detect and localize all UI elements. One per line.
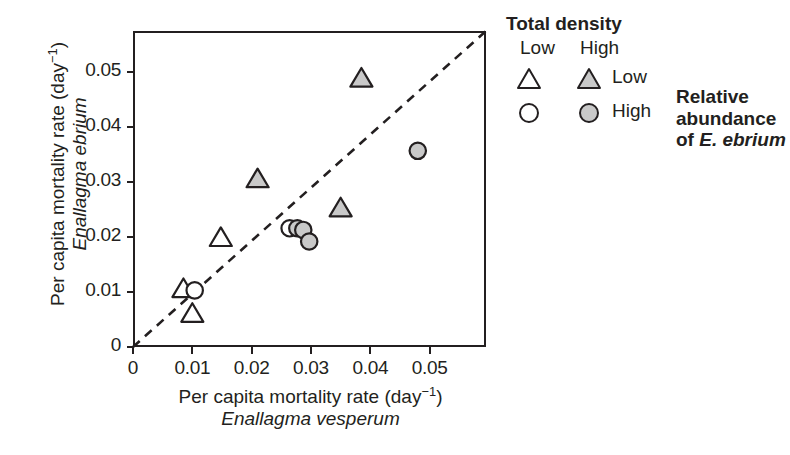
y-axis-tick (127, 181, 134, 183)
x-axis-title-exponent: −1 (421, 384, 436, 399)
data-point-circle-filled (301, 233, 317, 249)
x-axis-title-prefix: Per capita mortality rate (day (179, 386, 422, 407)
legend-side-note-line3: of E. ebrium (676, 129, 790, 151)
x-axis-tick (132, 347, 134, 354)
legend: Total density Low High Low (506, 14, 781, 138)
legend-filled-triangle-icon (574, 64, 604, 94)
data-point-triangle-open (210, 227, 232, 246)
data-point-circle-filled (410, 143, 426, 159)
y-axis-tick (127, 346, 134, 348)
data-point-triangle-filled (350, 68, 372, 87)
legend-column-header-high: High (580, 38, 619, 59)
legend-side-note-line1: Relative (676, 86, 790, 108)
plot-data-layer (133, 31, 486, 347)
y-axis-title-exponent: −1 (45, 48, 60, 63)
y-axis-title-suffix: ) (47, 42, 68, 48)
x-axis-title-species: Enallagma vesperum (118, 408, 503, 429)
x-axis-title: Per capita mortality rate (day−1) Enalla… (118, 385, 503, 429)
x-axis-tick (310, 347, 312, 354)
legend-open-circle-icon (514, 98, 544, 128)
legend-column-headers: Low High (506, 38, 781, 64)
x-axis-tick (191, 347, 193, 354)
y-axis-title-prefix: Per capita mortality rate (day (47, 63, 68, 306)
legend-row-label-high: High (612, 101, 651, 122)
x-axis-title-suffix: ) (436, 386, 442, 407)
x-axis-tick (251, 347, 253, 354)
legend-filled-circle-icon (574, 98, 604, 128)
x-axis-title-line1: Per capita mortality rate (day−1) (118, 385, 503, 408)
y-axis-title: Per capita mortality rate (day−1) Enalla… (46, 9, 90, 339)
x-axis-tick (369, 347, 371, 354)
y-axis-tick (127, 126, 134, 128)
legend-side-note-prefix: of (676, 129, 699, 150)
legend-side-note-species: E. ebrium (699, 129, 786, 150)
legend-column-header-low: Low (520, 38, 555, 59)
y-axis-tick (127, 236, 134, 238)
y-axis-tick (127, 291, 134, 293)
y-axis-tick (127, 71, 134, 73)
one-to-one-reference-line (133, 31, 486, 347)
y-axis-title-species: Enallagma ebrium (69, 9, 90, 339)
data-point-triangle-filled (247, 169, 269, 188)
data-point-triangle-open (181, 303, 203, 322)
legend-side-note: Relative abundance of E. ebrium (676, 86, 790, 151)
legend-row-label-low: Low (612, 67, 647, 88)
y-axis-title-line1: Per capita mortality rate (day−1) (46, 9, 69, 339)
legend-title: Total density (506, 14, 781, 35)
data-point-triangle-filled (330, 198, 352, 217)
x-axis-tick-label: 0.05 (395, 357, 465, 379)
legend-open-triangle-icon (514, 64, 544, 94)
data-point-circle-open (187, 282, 203, 298)
legend-side-note-line2: abundance (676, 108, 790, 130)
x-axis-tick (429, 347, 431, 354)
